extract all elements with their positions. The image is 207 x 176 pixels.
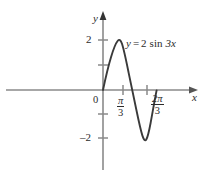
y-tick-label-2: 2 — [86, 34, 92, 45]
equation-equals: = — [133, 37, 139, 49]
graph-figure: y x 2 –2 0 π 3 2π 3 y=2sin3x — [0, 0, 207, 176]
x-tick-pi-over-3-denominator: 3 — [117, 107, 124, 118]
curve-equation-label: y=2sin3x — [126, 38, 176, 49]
x-tick-label-2pi-over-3: 2π 3 — [151, 93, 164, 116]
x-tick-pi-over-3-numerator: π — [117, 95, 124, 107]
equation-function: sin — [150, 37, 163, 49]
x-tick-2pi-over-3-numerator: 2π — [151, 93, 164, 105]
x-tick-label-pi-over-3: π 3 — [117, 95, 124, 118]
origin-label: 0 — [93, 95, 98, 106]
equation-coefficient: 2 — [141, 37, 147, 49]
y-tick-label-minus-2: –2 — [80, 132, 91, 143]
equation-lhs: y — [126, 37, 131, 49]
x-tick-2pi-over-3-denominator: 3 — [151, 105, 164, 116]
plot-canvas — [0, 0, 207, 176]
x-axis — [6, 87, 198, 94]
y-axis-label: y — [93, 13, 98, 24]
x-axis-label: x — [192, 92, 197, 103]
equation-argument: 3x — [165, 37, 175, 49]
